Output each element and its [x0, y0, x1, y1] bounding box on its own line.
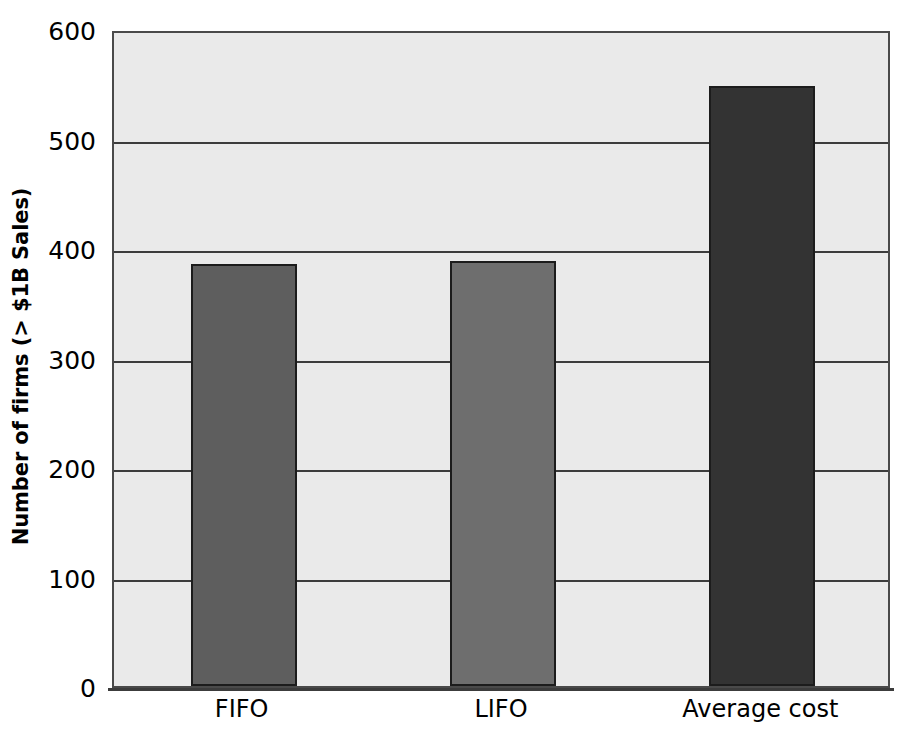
- x-axis-line: [108, 688, 894, 691]
- bar-average-cost: [709, 86, 815, 686]
- y-axis-tick-labels: 0100200300400500600: [0, 0, 104, 733]
- bar-chart-figure: Number of firms (> $1B Sales) 0100200300…: [0, 0, 907, 733]
- y-axis-tick-label: 400: [0, 238, 104, 263]
- y-axis-tick-label: 100: [0, 566, 104, 591]
- y-axis-tick-label: 300: [0, 347, 104, 372]
- y-axis-tick-label: 200: [0, 457, 104, 482]
- bar-lifo: [450, 261, 556, 686]
- x-axis-tick-label: Average cost: [682, 696, 838, 724]
- y-axis-tick-label: 500: [0, 128, 104, 153]
- x-axis-tick-label: FIFO: [215, 696, 269, 724]
- y-axis-tick-label: 0: [0, 676, 104, 701]
- plot-area: [112, 31, 890, 688]
- bar-fifo: [191, 264, 297, 686]
- y-axis-tick-label: 600: [0, 19, 104, 44]
- x-axis-tick-label: LIFO: [474, 696, 527, 724]
